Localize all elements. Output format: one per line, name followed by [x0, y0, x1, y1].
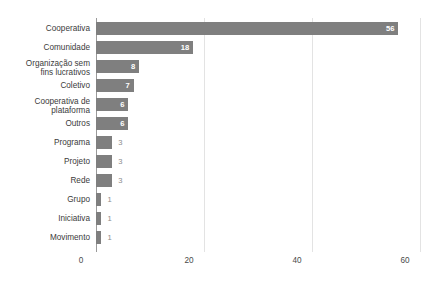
chart-row: Outros6 — [0, 117, 444, 136]
category-label: Outros — [0, 119, 90, 128]
chart-row: Organização sem fins lucrativos8 — [0, 60, 444, 79]
chart-row: Movimento1 — [0, 231, 444, 250]
x-tick-text: 40 — [282, 256, 312, 265]
chart-row: Iniciativa1 — [0, 212, 444, 231]
bar-value-label: 18 — [96, 41, 189, 54]
bar-value-label: 3 — [118, 174, 122, 187]
x-tick-text: 0 — [66, 256, 96, 265]
x-tick-label: 0 — [66, 256, 96, 265]
category-label: Organização sem fins lucrativos — [0, 59, 90, 78]
chart-row: Coletivo7 — [0, 79, 444, 98]
bar-value-label: 8 — [96, 60, 135, 73]
x-tick-label: 20 — [174, 256, 204, 265]
chart-row: Cooperativa56 — [0, 22, 444, 41]
x-tick-text: 60 — [390, 256, 420, 265]
x-tick-label: 40 — [282, 256, 312, 265]
bar-value-label: 56 — [96, 22, 394, 35]
bar-value-label: 6 — [96, 98, 124, 111]
x-tick-label: 60 — [390, 256, 420, 265]
category-label: Comunidade — [0, 43, 90, 52]
bar-value-label: 1 — [107, 212, 111, 225]
bar[interactable] — [96, 193, 101, 206]
chart-row: Cooperativa de plataforma6 — [0, 98, 444, 117]
category-label: Cooperativa de plataforma — [0, 97, 90, 116]
bar-value-label: 1 — [107, 231, 111, 244]
category-label: Coletivo — [0, 81, 90, 90]
chart-row: Projeto3 — [0, 155, 444, 174]
bar[interactable] — [96, 155, 112, 168]
chart-row: Comunidade18 — [0, 41, 444, 60]
category-label: Cooperativa — [0, 24, 90, 33]
bar-value-label: 1 — [107, 193, 111, 206]
category-label: Movimento — [0, 233, 90, 242]
bar[interactable] — [96, 174, 112, 187]
chart-row: Rede3 — [0, 174, 444, 193]
category-label: Projeto — [0, 157, 90, 166]
bar-chart: 0204060Cooperativa56Comunidade18Organiza… — [0, 0, 444, 283]
bar-value-label: 7 — [96, 79, 130, 92]
bar-value-label: 6 — [96, 117, 124, 130]
category-label: Iniciativa — [0, 214, 90, 223]
bar[interactable] — [96, 231, 101, 244]
bar[interactable] — [96, 212, 101, 225]
chart-row: Grupo1 — [0, 193, 444, 212]
x-tick-text: 20 — [174, 256, 204, 265]
category-label: Grupo — [0, 195, 90, 204]
bar-value-label: 3 — [118, 136, 122, 149]
category-label: Programa — [0, 138, 90, 147]
bar-value-label: 3 — [118, 155, 122, 168]
bar[interactable] — [96, 136, 112, 149]
chart-row: Programa3 — [0, 136, 444, 155]
category-label: Rede — [0, 176, 90, 185]
